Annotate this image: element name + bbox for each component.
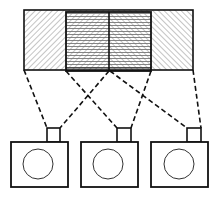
camera-middle-viewfinder (117, 128, 131, 142)
camera-left (11, 128, 68, 187)
overlap-right-horizontal (109, 12, 151, 71)
camera-coverage-diagram (0, 0, 218, 200)
middle-cam-right-ray (131, 71, 151, 128)
fov-lines (24, 70, 201, 128)
camera-middle (81, 128, 138, 187)
camera-right-viewfinder (187, 128, 201, 142)
middle-cam-left-ray (66, 71, 117, 128)
left-cam-left-ray (24, 70, 47, 128)
camera-left-viewfinder (47, 128, 60, 142)
right-cam-right-ray (193, 70, 201, 128)
overlap-left-horizontal (66, 12, 109, 71)
left-field-region (24, 10, 66, 70)
camera-right (151, 128, 208, 187)
left-cam-right-ray (60, 71, 109, 128)
scene-strip (24, 10, 193, 71)
right-field-region (151, 10, 193, 70)
